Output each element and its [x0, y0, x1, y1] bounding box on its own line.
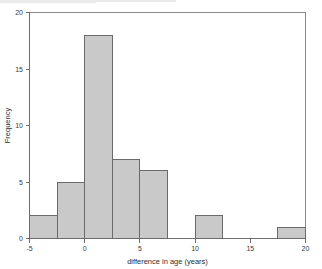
histogram-figure: 0 5 10 15 20 Frequency -5 0 5 10 15 20 [0, 0, 322, 269]
x-tick-label: 20 [302, 245, 310, 252]
y-tick-label: 5 [19, 179, 23, 186]
histogram-svg: 0 5 10 15 20 Frequency -5 0 5 10 15 20 [0, 0, 322, 269]
histogram-bar [112, 159, 140, 238]
histogram-bar [30, 216, 58, 239]
y-tick-labels: 0 5 10 15 20 [15, 9, 23, 242]
x-axis [30, 239, 306, 243]
histogram-bar [85, 35, 113, 238]
histogram-bar [57, 182, 85, 239]
x-tick-label: -5 [26, 245, 32, 252]
y-tick-label: 20 [15, 9, 23, 16]
y-tick-label: 10 [15, 122, 23, 129]
x-tick-label: 10 [191, 245, 199, 252]
scan-artifact [0, 0, 176, 3]
y-tick-label: 15 [15, 66, 23, 73]
x-tick-label: 5 [138, 245, 142, 252]
x-tick-label: 15 [246, 245, 254, 252]
x-tick-label: 0 [83, 245, 87, 252]
histogram-bar [195, 216, 223, 239]
y-axis [26, 13, 30, 239]
x-tick-labels: -5 0 5 10 15 20 [26, 245, 309, 252]
x-axis-title: difference in age (years) [127, 257, 208, 266]
y-tick-label: 0 [19, 235, 23, 242]
histogram-bars [30, 35, 306, 238]
histogram-bar [278, 227, 306, 238]
y-axis-title: Frequency [3, 108, 12, 144]
histogram-bar [140, 171, 168, 239]
